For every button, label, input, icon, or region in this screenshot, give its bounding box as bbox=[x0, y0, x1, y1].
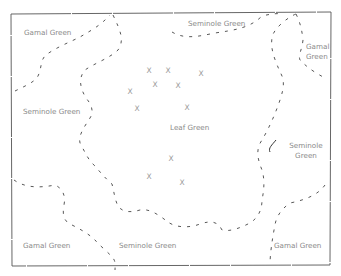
outer-boundary-lower-left bbox=[14, 180, 115, 270]
x-marker-icon: X bbox=[179, 179, 184, 187]
x-marker-icon: X bbox=[152, 81, 157, 89]
region-label-leaf-center: Leaf Green bbox=[170, 123, 209, 132]
outer-boundary bbox=[15, 15, 110, 91]
x-marker-icon: X bbox=[198, 70, 203, 78]
x-marker-icon: X bbox=[146, 67, 151, 75]
region-label-seminole-bottom: Seminole Green bbox=[119, 241, 176, 250]
outer-boundary-lower-right bbox=[270, 185, 325, 265]
x-marker-icon: X bbox=[127, 88, 132, 96]
region-label-seminole-left: Seminole Green bbox=[23, 107, 80, 116]
x-marker-icon: X bbox=[168, 155, 173, 163]
x-marker-icon: X bbox=[184, 104, 189, 112]
map-frame bbox=[11, 12, 331, 266]
x-marker-icon: X bbox=[134, 105, 139, 113]
region-label-gamal-top-right-text: Gamal Green bbox=[306, 42, 330, 62]
region-label-gamal-top-right: Gamal Green bbox=[306, 42, 330, 62]
x-marker-icon: X bbox=[165, 67, 170, 75]
region-label-seminole-right-text: Seminole Green bbox=[289, 141, 323, 161]
region-label-gamal-bottom-right: Gamal Green bbox=[274, 241, 321, 250]
region-label-seminole-right: Seminole Green bbox=[289, 141, 323, 161]
region-label-seminole-top: Seminole Green bbox=[188, 19, 245, 28]
map-canvas bbox=[0, 0, 341, 276]
region-label-gamal-top-left: Gamal Green bbox=[24, 28, 71, 37]
region-label-gamal-bottom-left: Gamal Green bbox=[23, 241, 70, 250]
inner-boundary-right-notch bbox=[269, 140, 276, 152]
x-marker-icon: X bbox=[175, 82, 180, 90]
x-marker-icon: X bbox=[146, 173, 151, 181]
